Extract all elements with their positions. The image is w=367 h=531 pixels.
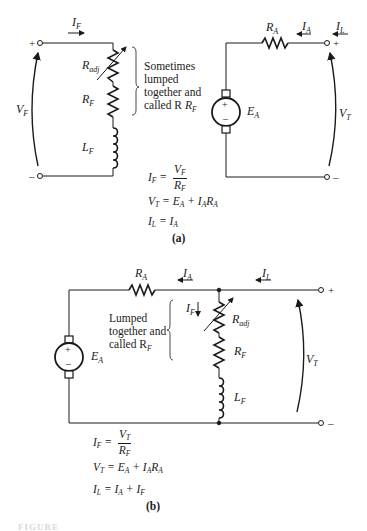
ia-label-a: IA — [302, 20, 311, 35]
r-f-label-a: RF — [82, 93, 94, 108]
equation-il-b: IL = IA + IF — [93, 484, 145, 497]
adjust-arrow-b — [204, 298, 233, 331]
r-adj-label-a: Radj — [82, 59, 100, 74]
vt-voltage-arrow-a — [329, 53, 336, 166]
r-a-resistor-a — [262, 38, 288, 48]
l-f-label-a: LF — [82, 141, 94, 156]
gen-plus-a: + — [222, 99, 228, 110]
equation-vt-a: VT = EA + IARA — [148, 196, 218, 209]
figure-label: FIGURE — [18, 522, 59, 531]
r-a-label-b: RA — [135, 267, 147, 282]
vt-label-a: VT — [339, 107, 351, 122]
vf-label: VF — [16, 103, 28, 118]
equation-vt-b: VT = EA + IARA — [93, 462, 163, 475]
r-f-label-b: RF — [234, 345, 246, 360]
gen-minus-b: – — [66, 358, 71, 369]
lumped-note-b: Lumped together and called RF — [109, 312, 166, 355]
l-f-label-b: LF — [234, 391, 246, 406]
brace-a — [132, 47, 139, 115]
il-label-b: IL — [262, 267, 270, 282]
gen-minus-a: – — [223, 113, 228, 124]
r-f-resistor-a — [108, 86, 118, 117]
r-f-resistor-b — [214, 337, 224, 368]
vf-plus-sign: + — [29, 37, 35, 49]
il-label-a: IL — [336, 20, 344, 35]
vt-voltage-arrow-b — [297, 300, 304, 412]
r-a-label-a: RA — [266, 21, 278, 36]
armature-circuit-a — [212, 34, 348, 180]
r-adj-label-b: Radj — [232, 313, 250, 328]
caption-a: (a) — [172, 232, 185, 244]
if-label-b: IF — [186, 302, 195, 317]
equation-if-b: IF = VTRF — [93, 429, 131, 457]
caption-b: (b) — [146, 500, 160, 512]
ia-label-b: IA — [183, 267, 192, 282]
vt-label-b: VT — [306, 353, 318, 368]
ea-label-a: EA — [247, 105, 259, 120]
gen-plus-b: + — [65, 344, 71, 355]
brace-b — [167, 300, 173, 360]
vf-voltage-arrow — [32, 53, 38, 166]
vt-minus-sign-a: – — [333, 171, 339, 183]
equation-il-a: IL = IA — [148, 216, 178, 229]
ea-label-b: EA — [91, 350, 103, 365]
r-a-resistor-b — [129, 285, 155, 295]
l-f-inductor-b — [219, 378, 224, 418]
vt-minus-sign-b: – — [328, 417, 334, 429]
lumped-note-a: Sometimes lumped together and called R R… — [144, 60, 201, 116]
l-f-inductor-a — [113, 128, 118, 168]
equation-if-a: IF = VFRF — [148, 164, 187, 192]
adjust-arrow-a — [97, 47, 126, 80]
vt-plus-sign-a: + — [333, 37, 339, 49]
vt-plus-sign-b: + — [328, 284, 334, 296]
if-label-a: IF — [72, 16, 81, 31]
vf-minus-sign: – — [29, 170, 35, 182]
